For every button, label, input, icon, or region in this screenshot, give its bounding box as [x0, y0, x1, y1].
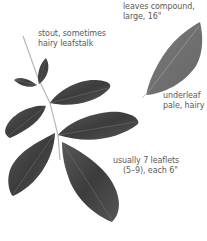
label-leaves-compound-line1: leaves compound, [123, 2, 195, 12]
leaflet-top-right [38, 58, 48, 84]
label-leafstalk-line2: hairy leafstalk [38, 39, 106, 49]
label-leaflets: usually 7 leaflets (5–9), each 6" [113, 156, 179, 176]
leaflet-top-left [14, 78, 37, 87]
leaflet-mid-left-1 [5, 106, 46, 138]
label-leaves-compound: leaves compound, large, 16" [123, 2, 195, 22]
leaflet-bottom [62, 142, 119, 222]
label-underleaf: underleaf pale, hairy [163, 91, 204, 111]
leaflet-mid-right-1 [50, 80, 110, 105]
label-underleaf-line1: underleaf [163, 91, 204, 101]
label-leaves-compound-line2: large, 16" [123, 12, 195, 22]
label-leaflets-line1: usually 7 leaflets [113, 156, 179, 166]
label-leafstalk: stout, sometimes hairy leafstalk [38, 29, 106, 49]
label-underleaf-line2: pale, hairy [163, 101, 204, 111]
underleaf [142, 22, 202, 98]
label-leafstalk-line1: stout, sometimes [38, 29, 106, 39]
leaflet-mid-right-2 [58, 112, 138, 140]
leaflet-mid-left-2 [8, 133, 55, 196]
label-leaflets-line2: (5–9), each 6" [123, 166, 179, 176]
